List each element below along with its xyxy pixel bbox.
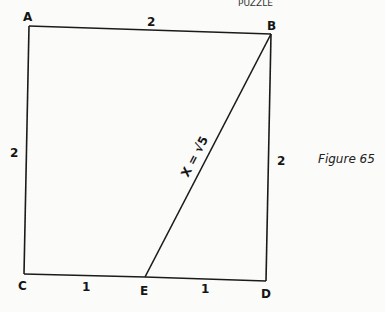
edge-label-ac: 2	[10, 146, 18, 160]
edge-ed	[145, 277, 266, 281]
edge-label-ab: 2	[147, 15, 155, 29]
edge-bd	[266, 34, 271, 281]
edge-label-ce: 1	[82, 280, 90, 294]
vertex-label-c: C	[18, 279, 27, 293]
vertex-label-b: B	[267, 19, 276, 33]
edge-ac	[24, 26, 29, 274]
edge-label-ed: 1	[201, 282, 209, 296]
vertex-label-e: E	[140, 284, 148, 298]
vertex-label-a: A	[23, 10, 33, 24]
edge-be-diagonal	[145, 34, 271, 277]
edge-label-be: X = √5	[178, 134, 211, 180]
square-diagram: PUZZLE A B C E D 2 2 2 1 1 X = √5 Figure…	[0, 0, 385, 312]
vertex-label-d: D	[261, 287, 271, 301]
header-fragment: PUZZLE	[238, 0, 273, 8]
figure-caption: Figure 65	[318, 152, 375, 166]
edge-ce	[24, 274, 145, 277]
edge-label-bd: 2	[277, 154, 285, 168]
